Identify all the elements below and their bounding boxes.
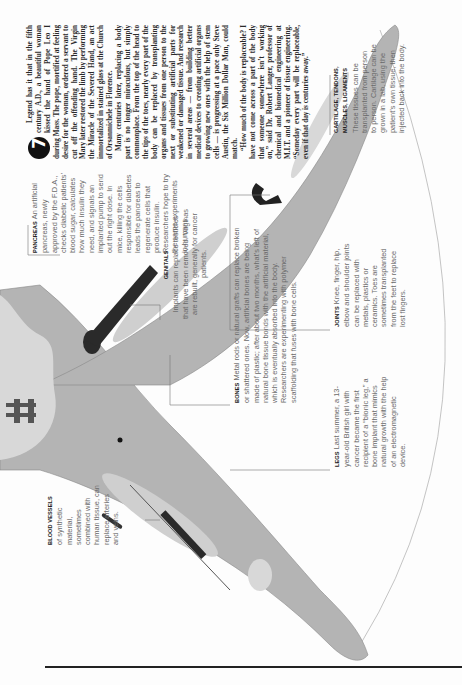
scanned-page-frame: 7 Legend has it that in the fifth centur… bbox=[0, 0, 462, 685]
number-badge: 7 bbox=[28, 137, 50, 159]
article-paragraph: Many centuries later, replacing a body p… bbox=[115, 25, 240, 159]
newspaper-page: 7 Legend has it that in the fifth centur… bbox=[0, 0, 462, 685]
caption-text: of synthetic material, sometimes combine… bbox=[55, 485, 120, 545]
caption-cartilage: Cartilage, tendons, muscles, ligaments T… bbox=[332, 43, 406, 133]
caption-text: These tissues can be transplanted from p… bbox=[351, 43, 407, 133]
caption-heading: Bones bbox=[234, 383, 240, 403]
knee-implant bbox=[252, 183, 282, 205]
caption-heading: Blood vessels bbox=[46, 487, 55, 545]
caption-heading: Pancreas bbox=[32, 221, 38, 253]
caption-text: Knee, finger, hip, elbow and shoulder jo… bbox=[332, 244, 407, 327]
caption-text: Implants can replace testicles that have… bbox=[171, 209, 208, 319]
caption-heading: Genitals bbox=[162, 211, 171, 319]
caption-legs: LegsLast summer, a 13-year-old British g… bbox=[332, 375, 407, 467]
article-paragraph: “How much of the body is replaceable? I … bbox=[240, 25, 311, 159]
caption-text: Metal rods or natural grafts can replace… bbox=[232, 227, 298, 403]
genital-implant-dot bbox=[118, 438, 123, 443]
knee-highlight-left bbox=[248, 559, 272, 591]
caption-heading: Cartilage, tendons, muscles, ligaments bbox=[332, 45, 351, 133]
caption-blood-vessels: Blood vessels of synthetic material, som… bbox=[46, 485, 120, 545]
article-paragraph: 7 Legend has it that in the fifth centur… bbox=[26, 25, 115, 159]
caption-bones: BonesMetal rods or natural grafts can re… bbox=[232, 227, 298, 403]
page-rule bbox=[45, 667, 462, 669]
caption-text: Last summer, a 13-year-old British girl … bbox=[332, 377, 407, 467]
caption-heading: Legs bbox=[334, 451, 340, 467]
article-body: 7 Legend has it that in the fifth centur… bbox=[26, 25, 292, 159]
caption-heading: Joints bbox=[334, 306, 340, 327]
caption-genitals: Genitals Implants can replace testicles … bbox=[162, 209, 208, 319]
caption-joints: JointsKnee, finger, hip, elbow and shoul… bbox=[332, 239, 407, 327]
